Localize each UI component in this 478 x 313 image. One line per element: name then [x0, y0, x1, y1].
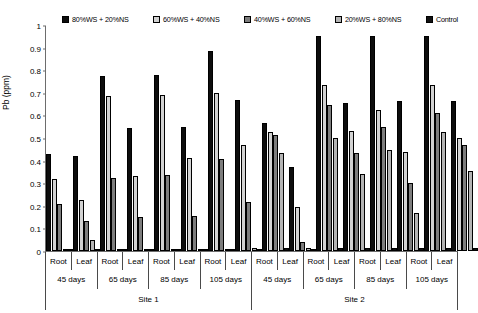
bar[interactable] [343, 103, 348, 251]
bar[interactable] [100, 76, 105, 251]
bar[interactable] [468, 171, 473, 251]
x-axis-site-row: Site 1Site 2 [45, 289, 458, 310]
bar[interactable] [397, 101, 402, 251]
bar[interactable] [360, 174, 365, 251]
bar[interactable] [160, 95, 165, 251]
x-axis-days-cell: 85 days [148, 270, 200, 289]
x-axis-organ-cell: Leaf [122, 252, 148, 270]
x-axis-site-cell: Site 2 [251, 289, 458, 310]
bar[interactable] [63, 249, 68, 251]
legend-label: 40%WS + 60%NS [254, 16, 311, 23]
bar-group [73, 26, 100, 251]
bar[interactable] [262, 123, 267, 251]
bar[interactable] [241, 145, 246, 251]
bar[interactable] [300, 242, 305, 251]
bar[interactable] [192, 216, 197, 251]
bar[interactable] [306, 248, 311, 251]
bar[interactable] [273, 135, 278, 251]
bar[interactable] [327, 105, 332, 251]
bar[interactable] [322, 85, 327, 251]
bar[interactable] [403, 152, 408, 251]
bar[interactable] [46, 154, 51, 251]
bar[interactable] [381, 127, 386, 251]
legend-item-0[interactable]: 80%WS + 20%NS [62, 16, 129, 23]
legend-item-4[interactable]: Control [426, 16, 458, 23]
bar[interactable] [354, 153, 359, 251]
legend-item-3[interactable]: 20%WS + 80%NS [335, 16, 402, 23]
bar[interactable] [451, 101, 456, 251]
bar[interactable] [127, 128, 132, 251]
bar[interactable] [138, 217, 143, 251]
bar[interactable] [214, 93, 219, 251]
bar[interactable] [295, 207, 300, 251]
bars-layer [46, 26, 458, 251]
bar[interactable] [73, 156, 78, 251]
bar[interactable] [441, 132, 446, 251]
x-axis-days-cell: 105 days [200, 270, 252, 289]
bar[interactable] [57, 204, 62, 251]
bar[interactable] [370, 36, 375, 251]
bar[interactable] [235, 100, 240, 251]
bar[interactable] [333, 138, 338, 251]
bar[interactable] [376, 110, 381, 251]
bar-group [181, 26, 208, 251]
bar[interactable] [316, 36, 321, 251]
bar[interactable] [219, 159, 224, 251]
bar[interactable] [171, 249, 176, 251]
bar[interactable] [90, 240, 95, 251]
x-axis-days-cell: 45 days [251, 270, 303, 289]
x-axis-organ-cell: Root [148, 252, 174, 270]
bar[interactable] [225, 249, 230, 251]
x-axis-organ-cell: Root [406, 252, 432, 270]
bar[interactable] [279, 153, 284, 251]
x-axis-organ-cell: Leaf [328, 252, 354, 270]
bar[interactable] [117, 249, 122, 251]
legend-item-2[interactable]: 40%WS + 60%NS [244, 16, 311, 23]
x-axis-organ-row: RootLeafRootLeafRootLeafRootLeafRootLeaf… [45, 252, 458, 270]
bar[interactable] [198, 249, 203, 251]
x-axis-days-cell: 65 days [303, 270, 355, 289]
bar[interactable] [144, 249, 149, 251]
bar[interactable] [430, 85, 435, 251]
bar[interactable] [52, 179, 57, 251]
bar[interactable] [289, 167, 294, 251]
x-axis-organ-cell: Root [200, 252, 226, 270]
bar[interactable] [457, 138, 462, 251]
bar-group [46, 26, 73, 251]
x-axis-organ-cell: Root [251, 252, 277, 270]
bar[interactable] [435, 113, 440, 251]
bar[interactable] [408, 183, 413, 251]
bar[interactable] [106, 96, 111, 251]
legend-item-1[interactable]: 60%WS + 40%NS [153, 16, 220, 23]
bar[interactable] [252, 248, 257, 251]
x-axis-organ-cell: Root [354, 252, 380, 270]
bar[interactable] [165, 175, 170, 251]
bar[interactable] [111, 178, 116, 251]
bar-group [127, 26, 154, 251]
legend-label: 60%WS + 40%NS [163, 16, 220, 23]
bar[interactable] [268, 132, 273, 251]
bar[interactable] [208, 51, 213, 251]
bar[interactable] [187, 158, 192, 251]
bar[interactable] [349, 131, 354, 251]
bar[interactable] [424, 36, 429, 251]
bar[interactable] [246, 202, 251, 251]
bar[interactable] [462, 145, 467, 251]
y-axis-tick-mark [43, 93, 46, 94]
bar[interactable] [84, 221, 89, 252]
bar[interactable] [181, 127, 186, 251]
x-axis-organ-cell: Root [45, 252, 71, 270]
bar[interactable] [473, 248, 478, 251]
bar[interactable] [414, 213, 419, 251]
y-axis-tick-mark [43, 161, 46, 162]
y-axis-tick-mark [43, 139, 46, 140]
x-axis-organ-cell: Leaf [380, 252, 406, 270]
legend-label: Control [436, 16, 458, 23]
bar[interactable] [387, 150, 392, 251]
bar[interactable] [133, 176, 138, 251]
bar[interactable] [79, 200, 84, 251]
x-axis-organ-cell: Root [303, 252, 329, 270]
legend-swatch-icon [335, 16, 342, 23]
bar[interactable] [154, 75, 159, 251]
